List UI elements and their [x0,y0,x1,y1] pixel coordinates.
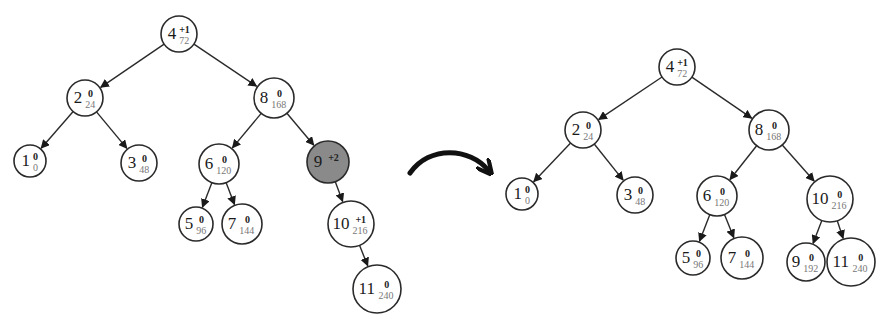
node-subtree-value: 216 [832,200,847,211]
node-subtree-value: 168 [766,131,781,142]
node-key: 8 [260,88,269,107]
node-circle [67,80,103,116]
edge-6-to-5 [699,215,709,242]
tree-node-4: 4+172 [161,16,197,52]
tree-node-7: 70144 [222,204,262,244]
tree-node-6: 60120 [697,176,737,216]
node-balance-factor: 0 [772,120,777,131]
node-key: 6 [703,186,712,205]
node-subtree-value: 216 [353,225,368,236]
node-balance-factor: 0 [638,185,643,196]
node-key: 10 [333,214,350,233]
tree-node-11: 110240 [827,238,875,286]
node-subtree-value: 144 [239,225,254,236]
node-key: 9 [314,152,323,171]
node-balance-factor: 0 [222,154,227,165]
node-subtree-value: 120 [216,165,231,176]
edge-8-to-6 [730,146,757,180]
tree-node-3: 3048 [617,177,653,213]
node-balance-factor: +2 [328,152,339,163]
node-key: 7 [728,248,737,267]
node-balance-factor: 0 [696,248,701,259]
node-key: 2 [74,88,83,107]
tree-node-10: 10+1216 [328,201,374,247]
node-balance-factor: 0 [384,279,389,290]
node-key: 3 [128,153,136,172]
node-key: 8 [755,120,764,139]
node-key: 5 [185,214,194,233]
node-key: 11 [359,279,375,298]
edge-10-to-11 [837,221,843,238]
avl-rotation-diagram: 4+1722024801681003048601209+250967014410… [0,0,892,319]
edge-2-to-1 [41,112,73,149]
node-key: 11 [833,252,849,271]
node-balance-factor: +1 [355,214,366,225]
node-balance-factor: 0 [199,214,204,225]
node-key: 9 [792,252,801,271]
tree-node-2: 2024 [67,80,103,116]
tree-node-3: 3048 [121,145,157,181]
node-balance-factor: 0 [837,189,842,200]
node-key: 1 [513,184,522,203]
node-subtree-value: 168 [271,99,286,110]
edge-10-to-11 [360,245,368,265]
node-key: 2 [572,120,581,139]
tree-node-9: 90192 [787,243,825,281]
tree-before-rotation: 4+1722024801681003048601209+250967014410… [14,16,401,313]
node-circle [617,177,653,213]
node-key: 1 [21,151,30,170]
node-balance-factor: 0 [720,186,725,197]
tree-after-rotation: 4+17220248016810030486012010021650967014… [506,49,875,286]
node-balance-factor: 0 [142,153,147,164]
node-subtree-value: 96 [693,259,703,270]
node-key: 6 [205,154,214,173]
node-balance-factor: 0 [277,88,282,99]
node-subtree-value: 48 [139,164,149,175]
node-subtree-value: 0 [33,162,38,173]
tree-node-7: 70144 [721,237,763,279]
edge-10-to-9 [813,220,822,243]
edge-2-to-1 [534,143,571,182]
node-balance-factor: 0 [525,184,530,195]
edge-4-to-8 [194,44,257,86]
node-circle [14,145,46,177]
node-subtree-value: 120 [714,197,729,208]
node-subtree-value: 192 [803,263,818,274]
node-key: 7 [228,214,237,233]
tree-node-5: 5096 [676,241,710,275]
node-subtree-value: 0 [525,195,530,206]
tree-node-5: 5096 [179,207,213,241]
node-key: 10 [812,189,829,208]
edge-8-to-9 [287,113,314,145]
node-balance-factor: 0 [33,151,38,162]
tree-node-10: 100216 [807,176,853,222]
edge-8-to-10 [782,145,814,181]
node-key: 3 [624,185,633,204]
edge-6-to-5 [202,183,211,208]
tree-node-1: 100 [506,178,538,210]
edge-6-to-7 [724,215,733,238]
node-subtree-value: 240 [853,263,868,274]
edge-9-to-10 [335,182,342,202]
node-subtree-value: 96 [196,225,206,236]
edge-6-to-7 [226,183,234,205]
edge-4-to-8 [692,77,752,118]
tree-node-4: 4+172 [659,49,695,85]
node-balance-factor: 0 [858,252,863,263]
node-balance-factor: 0 [245,214,250,225]
tree-node-6: 60120 [199,144,239,184]
edge-2-to-3 [97,112,127,149]
node-circle [506,178,538,210]
tree-node-8: 80168 [749,110,789,150]
tree-node-2: 2024 [565,112,601,148]
node-subtree-value: 72 [179,35,189,46]
tree-node-8: 80168 [254,78,294,118]
node-circle [121,145,157,181]
node-subtree-value: 24 [85,99,95,110]
node-balance-factor: 0 [809,252,814,263]
node-balance-factor: 0 [745,248,750,259]
node-subtree-value: 72 [677,68,687,79]
node-key: 4 [168,24,177,43]
node-key: 4 [666,57,675,76]
node-balance-factor: +1 [677,57,688,68]
